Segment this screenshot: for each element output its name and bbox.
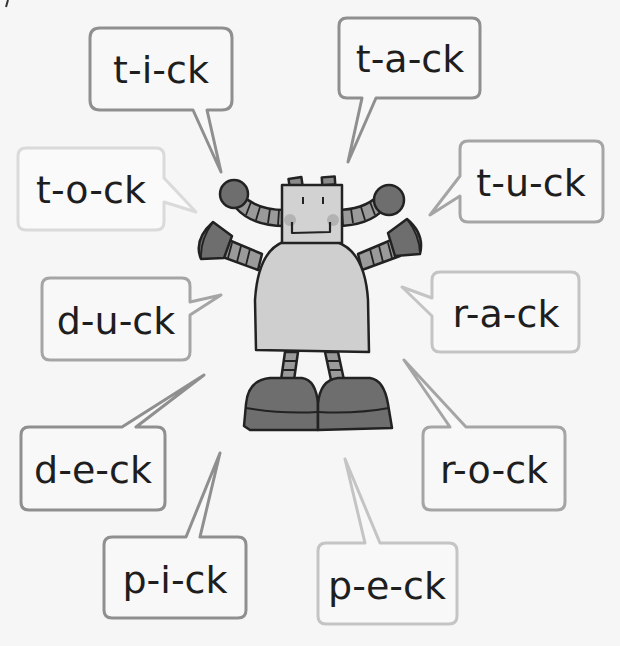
- robot-cheek-left: [284, 214, 296, 226]
- word-rock: r-o-ck: [440, 451, 548, 489]
- robot-upper-right-arm: [336, 185, 404, 226]
- robot-lower-left-arm: [199, 222, 262, 270]
- robot-lower-right-arm: [358, 219, 421, 270]
- phonics-illustration: t-i-ck t-a-ck t-o-ck t-u-ck d-u-ck r-a-c…: [0, 0, 620, 646]
- word-rack: r-a-ck: [453, 295, 560, 333]
- word-tack: t-a-ck: [356, 40, 465, 78]
- robot: [199, 177, 421, 430]
- word-tock: t-o-ck: [36, 171, 146, 209]
- word-tick: t-i-ck: [113, 51, 209, 89]
- robot-feet: [244, 378, 392, 430]
- stray-mark: [6, 0, 8, 7]
- robot-legs: [281, 352, 344, 380]
- robot-cheek-right: [327, 214, 339, 226]
- word-duck: d-u-ck: [57, 302, 176, 340]
- word-pick: p-i-ck: [122, 561, 227, 599]
- word-tuck: t-u-ck: [476, 164, 585, 202]
- robot-upper-left-arm: [220, 180, 285, 226]
- word-deck: d-e-ck: [34, 451, 152, 489]
- word-peck: p-e-ck: [328, 567, 446, 605]
- robot-body: [255, 242, 369, 352]
